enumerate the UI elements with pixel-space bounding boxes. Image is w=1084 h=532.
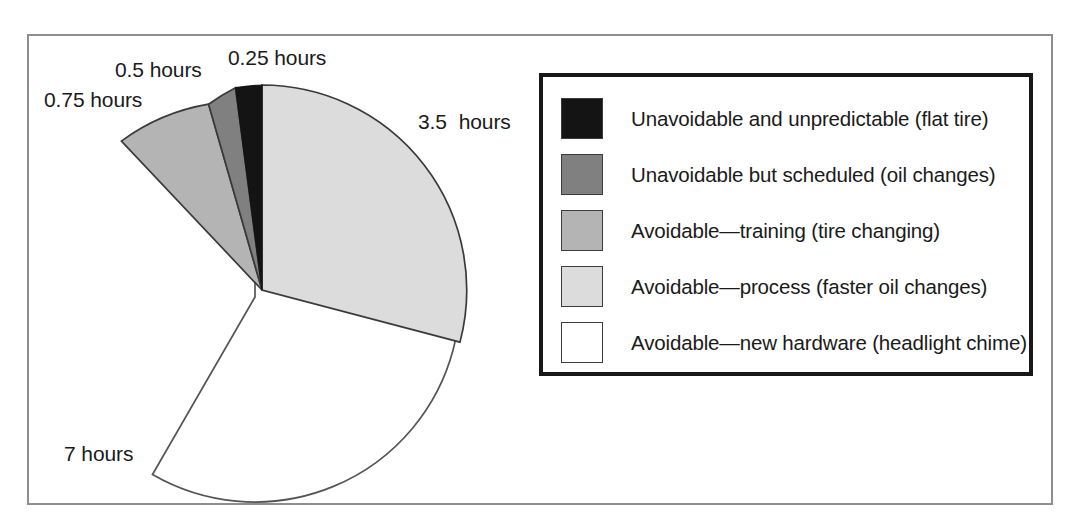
slice-value-label-0.5: 0.5 hours <box>115 58 202 82</box>
legend-swatch-icon <box>561 154 603 195</box>
legend-item-label: Avoidable—process (faster oil changes) <box>631 275 987 299</box>
legend-item-avoidable-training[interactable]: Avoidable—training (tire changing) <box>561 203 1029 258</box>
legend-item-label: Avoidable—training (tire changing) <box>631 219 940 243</box>
legend-swatch-icon <box>561 98 603 139</box>
figure-page: 0.25 hours 0.5 hours 0.75 hours 3.5 hour… <box>0 0 1084 532</box>
legend-swatch-icon <box>561 266 603 307</box>
legend-swatch-icon <box>561 210 603 251</box>
legend-item-avoidable-new-hardware[interactable]: Avoidable—new hardware (headlight chime) <box>561 315 1029 370</box>
legend-item-avoidable-process[interactable]: Avoidable—process (faster oil changes) <box>561 259 1029 314</box>
slice-value-label-3.5: 3.5 hours <box>418 110 511 134</box>
slice-value-label-7: 7 hours <box>64 442 133 466</box>
slice-value-label-0.75: 0.75 hours <box>44 88 142 112</box>
legend-item-label: Unavoidable but scheduled (oil changes) <box>631 163 996 187</box>
legend-item-label: Unavoidable and unpredictable (flat tire… <box>631 107 988 131</box>
legend-item-unavoidable-scheduled[interactable]: Unavoidable but scheduled (oil changes) <box>561 147 1029 202</box>
legend-swatch-icon <box>561 322 603 363</box>
legend: Unavoidable and unpredictable (flat tire… <box>539 73 1033 376</box>
slice-value-label-0.25: 0.25 hours <box>228 46 326 70</box>
legend-item-label: Avoidable—new hardware (headlight chime) <box>631 331 1027 355</box>
legend-items: Unavoidable and unpredictable (flat tire… <box>543 77 1029 372</box>
legend-item-unavoidable-unpredictable[interactable]: Unavoidable and unpredictable (flat tire… <box>561 91 1029 146</box>
